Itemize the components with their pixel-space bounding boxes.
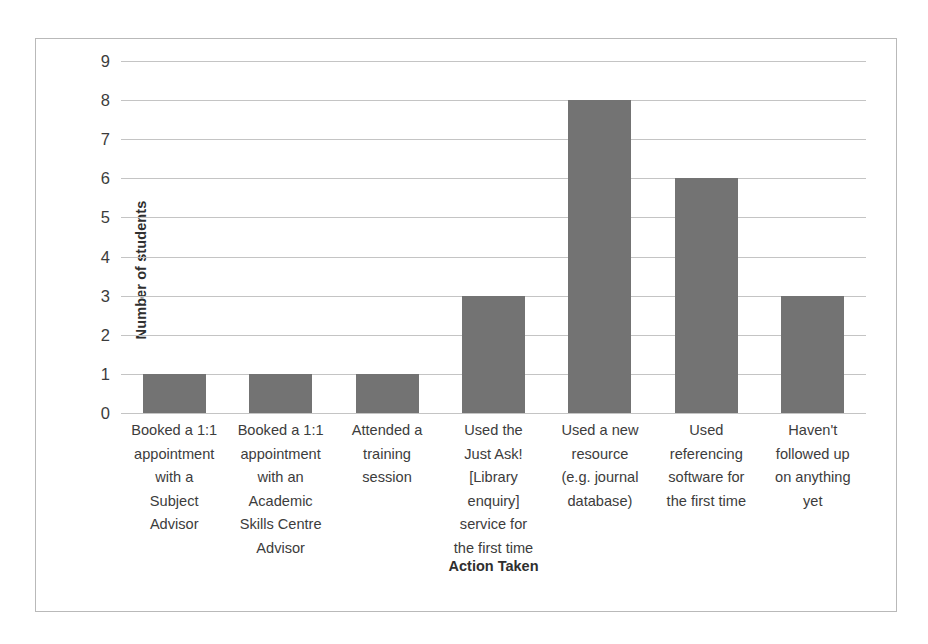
x-axis-category-label: Booked a 1:1appointmentwith anAcademicSk… (227, 419, 333, 560)
chart-frame: Number of students 0123456789 Booked a 1… (35, 38, 897, 612)
y-axis-tick-label: 3 (101, 287, 110, 304)
x-axis-category-label: Used a newresource(e.g. journaldatabase) (547, 419, 653, 513)
x-axis-category-label: Usedreferencingsoftware forthe first tim… (653, 419, 759, 513)
y-axis-tick-label: 1 (101, 366, 110, 383)
y-axis-tick-label: 5 (101, 209, 110, 226)
x-axis-category-label: Booked a 1:1appointmentwith aSubjectAdvi… (121, 419, 227, 537)
y-axis-tick-label: 4 (101, 248, 110, 265)
gridline (121, 178, 866, 179)
bar (675, 178, 738, 413)
y-axis-tick-label: 8 (101, 92, 110, 109)
x-axis-category-label: Used theJust Ask![Libraryenquiry]service… (440, 419, 546, 560)
bar (249, 374, 312, 413)
y-axis-tick-label: 2 (101, 327, 110, 344)
gridline (121, 139, 866, 140)
y-axis-tick-label: 7 (101, 131, 110, 148)
x-axis-title: Action Taken (121, 558, 866, 574)
gridline (121, 217, 866, 218)
gridline (121, 100, 866, 101)
bar (781, 296, 844, 413)
bar (143, 374, 206, 413)
x-axis-category-label: Haven'tfollowed upon anythingyet (760, 419, 866, 513)
x-axis-category-label: Attended atrainingsession (334, 419, 440, 490)
gridline (121, 257, 866, 258)
bar (462, 296, 525, 413)
y-axis-tick-label: 0 (101, 405, 110, 422)
y-axis-tick-label: 9 (101, 53, 110, 70)
y-axis-tick-label: 6 (101, 170, 110, 187)
gridline (121, 413, 866, 414)
bar (568, 100, 631, 413)
y-axis-title-container: Number of students (40, 159, 66, 359)
plot-area: 0123456789 (121, 61, 866, 413)
gridline (121, 61, 866, 62)
bar (356, 374, 419, 413)
x-axis-labels: Booked a 1:1appointmentwith aSubjectAdvi… (121, 419, 866, 579)
